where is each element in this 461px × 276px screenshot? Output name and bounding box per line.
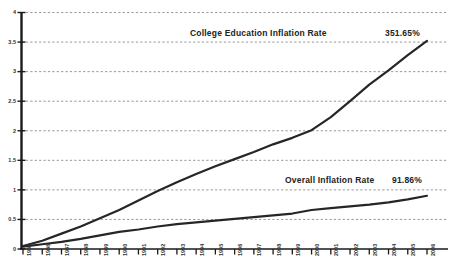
overall-series-label: Overall Inflation Rate (285, 175, 374, 185)
college-series-value: 351.65% (385, 28, 420, 38)
x-tick-label: 1985 (26, 244, 32, 256)
y-tick-label: 3 (0, 68, 16, 74)
y-tick-label: 1 (0, 187, 16, 193)
y-tick-label: 2.5 (0, 98, 16, 104)
chart-plot-area (0, 0, 461, 276)
x-tick-label: 1989 (103, 244, 109, 256)
x-tick-label: 1990 (122, 244, 128, 256)
overall-series-value: 91.86% (392, 175, 422, 185)
x-tick-label: 1997 (256, 244, 262, 256)
x-tick-label: 1994 (199, 244, 205, 256)
college-series-label: College Education Inflation Rate (190, 28, 327, 38)
x-tick-label: 2002 (353, 244, 359, 256)
inflation-line-chart: 00.511.522.533.54 1985198619871988198919… (0, 0, 461, 276)
series-line-overall (23, 196, 427, 247)
y-tick-label: 0 (0, 246, 16, 252)
x-tick-label: 1993 (180, 244, 186, 256)
x-tick-label: 2000 (314, 244, 320, 256)
x-tick-label: 2005 (410, 244, 416, 256)
x-tick-label: 1988 (83, 244, 89, 256)
x-tick-label: 2003 (372, 244, 378, 256)
x-tick-label: 1995 (218, 244, 224, 256)
x-tick-label: 2006 (430, 244, 436, 256)
x-tick-label: 2004 (391, 244, 397, 256)
y-tick-label: 4 (0, 9, 16, 15)
x-tick-label: 1998 (276, 244, 282, 256)
x-tick-label: 1987 (64, 244, 70, 256)
gridlines-group (18, 13, 449, 250)
x-tick-label: 1986 (45, 244, 51, 256)
x-tick-label: 1992 (160, 244, 166, 256)
x-tick-label: 1991 (141, 244, 147, 256)
x-tick-label: 1999 (295, 244, 301, 256)
y-tick-label: 2 (0, 128, 16, 134)
y-tick-label: 3.5 (0, 39, 16, 45)
x-tick-label: 2001 (333, 244, 339, 256)
x-tick-label: 1996 (237, 244, 243, 256)
y-tick-label: 1.5 (0, 157, 16, 163)
y-tick-label: 0.5 (0, 216, 16, 222)
